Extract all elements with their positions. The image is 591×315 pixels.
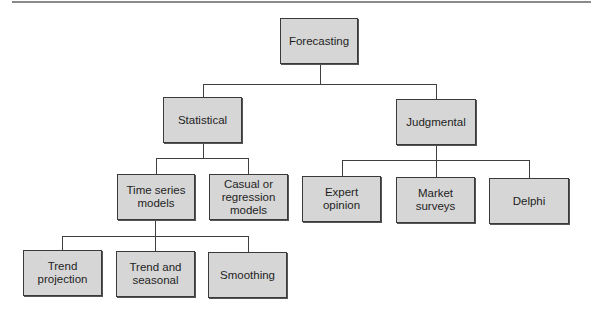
connector-statistical-down	[203, 143, 204, 158]
connector-time-series-down	[155, 220, 156, 236]
node-trend-projection: Trend projection	[23, 250, 102, 296]
node-statistical: Statistical	[163, 97, 242, 143]
connector-forecasting-down	[320, 63, 321, 84]
connector-to-market	[436, 160, 437, 177]
connector-statistical-bar	[156, 158, 249, 159]
connector-to-delphi	[529, 160, 530, 178]
node-judgmental: Judgmental	[396, 99, 476, 145]
node-casual-regression-models: Casual or regression models	[209, 174, 288, 220]
top-rule	[12, 1, 591, 3]
node-trend-and-seasonal: Trend and seasonal	[116, 251, 195, 297]
connector-to-statistical	[203, 84, 204, 97]
connector-to-expert	[342, 160, 343, 176]
connector-to-time-series	[156, 158, 157, 174]
connector-to-casual	[248, 158, 249, 174]
connector-judgmental-down	[436, 145, 437, 160]
node-smoothing: Smoothing	[208, 252, 287, 298]
node-delphi: Delphi	[489, 178, 569, 224]
node-forecasting: Forecasting	[280, 18, 358, 64]
node-expert-opinion: Expert opinion	[302, 176, 381, 222]
node-time-series-models: Time series models	[117, 174, 195, 220]
connector-to-trend-projection	[62, 236, 63, 250]
connector-level1-bar	[203, 84, 437, 85]
connector-to-trend-seasonal	[155, 236, 156, 251]
node-market-surveys: Market surveys	[396, 177, 475, 223]
connector-to-smoothing	[248, 236, 249, 252]
connector-to-judgmental	[436, 84, 437, 99]
